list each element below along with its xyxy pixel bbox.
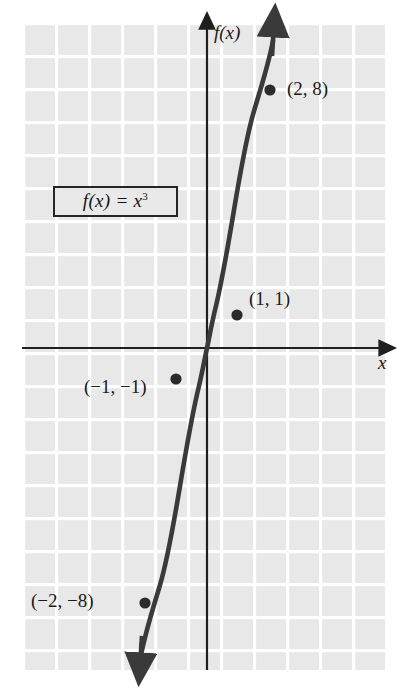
point-label-2-8: (2, 8) (287, 78, 328, 100)
grid-background (22, 22, 388, 670)
equation-lhs: f(x) = x (83, 191, 143, 212)
y-axis-label: f(x) (214, 22, 240, 44)
x-axis-label: x (378, 352, 386, 374)
point-label-neg2-neg8: (−2, −8) (31, 590, 94, 612)
point-label-1-1: (1, 1) (249, 288, 290, 310)
graph-canvas (0, 0, 410, 690)
data-point-neg1-neg1 (170, 373, 181, 384)
cubic-function-graph: f(x) = x3 f(x) x (2, 8) (1, 1) (−1, −1) … (0, 0, 410, 690)
point-label-neg1-neg1: (−1, −1) (84, 376, 147, 398)
data-point-neg2-neg8 (139, 597, 150, 608)
data-point-2-8 (264, 84, 275, 95)
curve-arrow-bottom (141, 636, 143, 658)
equation-text: f(x) = x3 (83, 190, 148, 212)
equation-exponent: 3 (142, 190, 148, 202)
equation-box: f(x) = x3 (53, 186, 178, 217)
data-point-1-1 (231, 309, 242, 320)
curve-arrow-top (272, 32, 274, 56)
